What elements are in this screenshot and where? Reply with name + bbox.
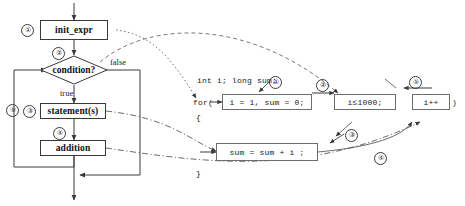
- marker-condition: ②: [52, 47, 65, 60]
- codebox-condition[interactable]: i≤1000;: [334, 94, 396, 110]
- edge-label-false: false: [110, 57, 126, 67]
- marker-init-expr: ①: [21, 24, 34, 37]
- marker-code-increment-link: ④: [374, 152, 387, 165]
- codebox-increment[interactable]: i++: [412, 94, 450, 110]
- code-for-keyword: for(: [193, 98, 213, 107]
- marker-code-loopback: ⑤: [409, 76, 422, 89]
- code-close-brace: }: [196, 169, 201, 178]
- node-statements[interactable]: statement(s): [40, 103, 106, 119]
- node-condition[interactable]: condition?: [40, 55, 108, 85]
- node-condition-label: condition?: [40, 55, 108, 85]
- codebox-body[interactable]: sum = sum + i ;: [216, 143, 318, 161]
- marker-addition: ④: [53, 127, 66, 140]
- codebox-init-expr[interactable]: i = 1, sum = 0;: [222, 94, 312, 110]
- code-open-brace: {: [196, 113, 201, 122]
- node-init-expr[interactable]: init_expr: [40, 20, 108, 40]
- marker-loopback: ⑤: [6, 104, 19, 117]
- code-declarations: int i; long sum;: [197, 76, 277, 85]
- node-init-expr-label: init_expr: [55, 25, 93, 35]
- edge-label-true: true: [60, 88, 73, 98]
- marker-statements: ③: [23, 105, 36, 118]
- node-addition-label: addition: [56, 143, 91, 153]
- marker-code-body: ③: [345, 129, 358, 142]
- node-addition[interactable]: addition: [40, 140, 106, 156]
- marker-code-init: ①: [269, 76, 282, 89]
- marker-code-condition: ②: [316, 79, 329, 92]
- diagram-canvas: init_expr ① condition? ② false true stat…: [0, 0, 465, 206]
- node-statements-label: statement(s): [48, 106, 99, 116]
- code-close-paren: ): [452, 98, 457, 107]
